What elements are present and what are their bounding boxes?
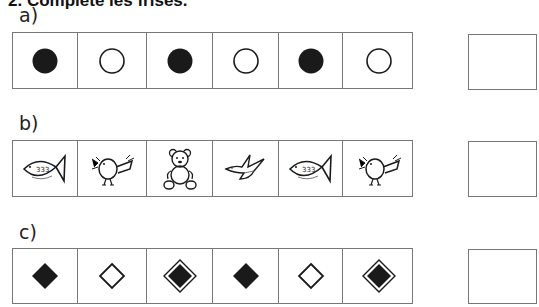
bird-icon	[355, 149, 403, 189]
frieze-cell	[78, 249, 147, 303]
empty-circle-icon	[232, 47, 260, 75]
filled-circle-icon	[31, 47, 59, 75]
frieze-cell	[279, 33, 343, 88]
swallow-icon	[224, 153, 268, 185]
row-label-c: c)	[19, 221, 37, 243]
svg-text:333: 333	[302, 166, 315, 174]
framed-filled-diamond-icon	[163, 259, 197, 293]
frieze-cell	[279, 249, 343, 303]
svg-text:333: 333	[36, 166, 49, 174]
frieze-cell	[78, 33, 147, 88]
frieze-cell	[78, 141, 147, 196]
frieze-cell	[147, 249, 213, 303]
frieze-strip-b: 333	[12, 140, 413, 197]
bird-icon	[88, 149, 136, 189]
filled-diamond-icon	[30, 261, 60, 291]
answer-box-b[interactable]	[468, 141, 537, 197]
framed-filled-diamond-icon	[362, 259, 396, 293]
empty-diamond-icon	[296, 261, 326, 291]
frieze-strip-a	[12, 32, 413, 89]
row-label-a: a)	[19, 4, 38, 26]
empty-circle-icon	[365, 47, 393, 75]
frieze-cell	[147, 141, 213, 196]
teddy-bear-icon	[160, 147, 200, 191]
frieze-cell	[213, 141, 279, 196]
frieze-cell	[343, 33, 414, 88]
frieze-cell	[343, 141, 414, 196]
answer-box-a[interactable]	[468, 34, 537, 90]
fish-icon: 333	[286, 151, 336, 187]
frieze-cell	[13, 33, 78, 88]
frieze-cell	[213, 249, 279, 303]
frieze-cell	[213, 33, 279, 88]
frieze-cell	[13, 249, 78, 303]
frieze-cell: 333	[279, 141, 343, 196]
filled-diamond-icon	[231, 261, 261, 291]
fish-icon: 333	[20, 151, 70, 187]
empty-diamond-icon	[97, 261, 127, 291]
frieze-cell: 333	[13, 141, 78, 196]
filled-circle-icon	[166, 47, 194, 75]
answer-box-c[interactable]	[468, 249, 537, 304]
frieze-cell	[343, 249, 414, 303]
frieze-strip-c	[12, 248, 413, 304]
row-label-b: b)	[19, 112, 38, 134]
filled-circle-icon	[297, 47, 325, 75]
frieze-cell	[147, 33, 213, 88]
empty-circle-icon	[98, 47, 126, 75]
